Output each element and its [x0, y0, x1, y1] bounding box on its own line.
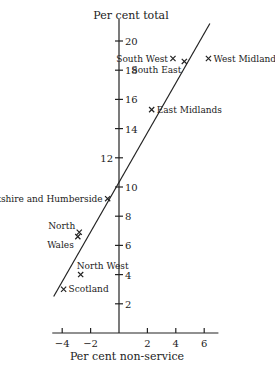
x-marker [182, 59, 187, 64]
point-label: South West [116, 54, 168, 64]
data-point: South West [116, 54, 175, 64]
x-tick-label: 6 [201, 338, 207, 349]
y-tick-label: 12 [100, 153, 113, 164]
y-tick-label: 14 [125, 124, 138, 135]
x-tick-label: −4 [55, 338, 70, 349]
point-label: Wales [47, 240, 74, 250]
data-point: Scotland [61, 284, 109, 294]
y-tick-label: 4 [125, 270, 131, 281]
y-tick-label: 16 [125, 94, 138, 105]
y-tick-label: 8 [125, 211, 131, 222]
x-axis-title: Per cent non-service [70, 350, 184, 363]
point-label: East Midlands [157, 105, 223, 115]
point-label: West Midlands [213, 54, 275, 64]
x-marker [149, 107, 154, 112]
point-label: South East [131, 65, 181, 75]
y-tick-label: 2 [125, 299, 131, 310]
data-point: East Midlands [149, 105, 222, 115]
x-marker [206, 56, 211, 61]
y-tick-label: 10 [125, 182, 138, 193]
x-marker [75, 234, 80, 239]
y-tick-label: 6 [125, 240, 131, 251]
scatter-chart: −4−22462468101214161820 South WestSouth … [0, 0, 275, 367]
point-label: Yorkshire and Humberside [0, 194, 103, 204]
x-marker [170, 56, 175, 61]
x-tick-label: 2 [144, 338, 150, 349]
y-axis-title: Per cent total [93, 9, 169, 22]
data-point: North [48, 221, 82, 235]
x-marker [77, 230, 82, 235]
data-point: Yorkshire and Humberside [0, 194, 110, 204]
data-point: West Midlands [206, 54, 275, 64]
x-tick-label: −2 [83, 338, 98, 349]
data-point: Wales [47, 234, 80, 250]
x-marker [61, 287, 66, 292]
point-label: North West [77, 261, 129, 271]
x-marker [78, 272, 83, 277]
y-tick-label: 20 [125, 36, 138, 47]
point-label: Scotland [69, 284, 109, 294]
x-tick-label: 4 [173, 338, 179, 349]
point-label: North [48, 221, 75, 231]
